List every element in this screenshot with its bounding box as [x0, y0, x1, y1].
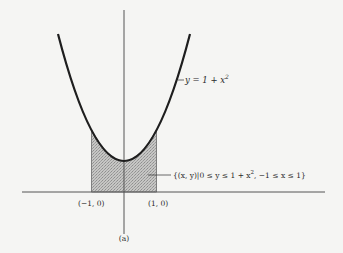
point-label-left: (−1, 0)	[78, 199, 105, 208]
region-label: {(x, y)|0 ≤ y ≤ 1 + x2, −1 ≤ x ≤ 1}	[173, 169, 306, 180]
figure: y = 1 + x2 {(x, y)|0 ≤ y ≤ 1 + x2, −1 ≤ …	[0, 0, 343, 253]
figure-caption: (a)	[119, 234, 129, 243]
plot: y = 1 + x2 {(x, y)|0 ≤ y ≤ 1 + x2, −1 ≤ …	[0, 0, 343, 253]
point-label-right: (1, 0)	[148, 199, 168, 208]
curve-label: y = 1 + x2	[184, 73, 229, 85]
